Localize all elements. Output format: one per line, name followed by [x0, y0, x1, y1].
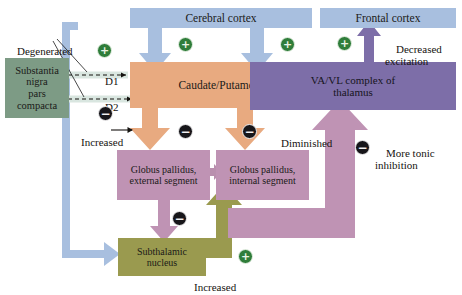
box-caudate-putamen-label: Caudate/Putamen — [178, 79, 259, 92]
box-globus-pallidus-external-label: Globus pallidus, external segment — [129, 164, 197, 186]
sign-minus-striatum-gpi: − — [242, 124, 257, 139]
box-frontal-cortex-label: Frontal cortex — [356, 12, 421, 25]
box-cerebral-cortex[interactable]: Cerebral cortex — [130, 8, 312, 28]
label-degenerated: Degenerated — [6, 32, 73, 70]
box-cerebral-cortex-label: Cerebral cortex — [185, 12, 256, 25]
arrow-striatum-to-gpe — [130, 108, 170, 150]
box-frontal-cortex[interactable]: Frontal cortex — [320, 8, 456, 28]
label-diminished: Diminished — [270, 124, 332, 162]
label-increased-bottom: Increased — [183, 268, 236, 295]
sign-minus-gpe-stn: − — [172, 211, 187, 226]
sign-minus-striatum-gpe: − — [178, 124, 193, 139]
sign-plus-d1: + — [97, 43, 112, 58]
box-substantia-nigra-label: Substantia nigra pars compacta — [15, 65, 59, 112]
sign-plus-cortex-striatum-mid: + — [178, 37, 193, 52]
sign-minus-d2: − — [98, 106, 113, 121]
sign-plus-stn-gpi: + — [238, 249, 253, 264]
label-more-tonic-inhibition: More tonic inhibition — [375, 134, 435, 184]
label-increased-left: Increased — [70, 123, 123, 161]
sign-plus-thalamus-cortex: + — [337, 36, 352, 51]
box-globus-pallidus-internal-label: Globus pallidus, internal segment — [229, 164, 295, 186]
sign-plus-cortex-striatum-right: + — [280, 37, 295, 52]
box-subthalamic-nucleus-label: Subthalamic nucleus — [137, 246, 187, 268]
box-thalamus-label: VA/VL complex of thalamus — [311, 74, 395, 99]
sign-minus-gpi-thalamus: − — [355, 140, 370, 155]
label-decreased-excitation: Decreased excitation — [385, 30, 442, 80]
box-globus-pallidus-external[interactable]: Globus pallidus, external segment — [117, 150, 210, 200]
